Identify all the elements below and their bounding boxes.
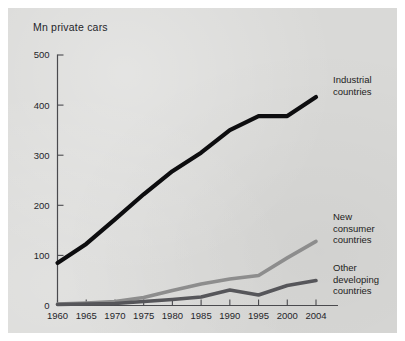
tick-labels-group: 0100200300400500196019651970197519801985… — [34, 49, 327, 321]
x-tick-label: 1990 — [219, 310, 240, 321]
annotation-other-developing-line-2: developing — [333, 274, 379, 286]
x-tick-label: 1970 — [104, 310, 125, 321]
annotation-new-consumer-line-2: consumer — [333, 223, 375, 235]
y-tick-label: 400 — [34, 100, 50, 111]
annotation-new-consumer-countries: New consumer countries — [333, 211, 375, 246]
annotation-industrial-line-2: countries — [333, 86, 372, 98]
y-tick-label: 300 — [34, 150, 50, 161]
axis-spine — [58, 55, 339, 306]
annotation-other-developing-countries: Other developing countries — [333, 262, 379, 297]
y-tick-label: 500 — [34, 49, 50, 60]
series-line-industrial-countries — [58, 97, 317, 263]
annotation-new-consumer-line-1: New — [333, 211, 375, 223]
data-series-group — [58, 97, 317, 304]
x-tick-label: 1980 — [162, 310, 183, 321]
annotation-industrial-countries: Industrial countries — [333, 74, 372, 97]
x-tick-label: 1960 — [47, 310, 68, 321]
series-line-new-consumer-countries — [58, 241, 317, 304]
x-tick-label: 1995 — [248, 310, 269, 321]
annotation-other-developing-line-3: countries — [333, 285, 379, 297]
annotation-industrial-line-1: Industrial — [333, 74, 372, 86]
y-tick-label: 200 — [34, 200, 50, 211]
annotation-other-developing-line-1: Other — [333, 262, 379, 274]
chart-figure: Mn private cars 010020030040050019601965… — [0, 0, 405, 341]
x-tick-label: 1975 — [133, 310, 154, 321]
y-tick-label: 100 — [34, 250, 50, 261]
axes-group — [58, 55, 339, 306]
x-tick-label: 1965 — [76, 310, 97, 321]
x-tick-label: 1985 — [191, 310, 212, 321]
annotation-new-consumer-line-3: countries — [333, 234, 375, 246]
x-tick-label: 2000 — [277, 310, 298, 321]
x-tick-label: 2004 — [305, 310, 326, 321]
